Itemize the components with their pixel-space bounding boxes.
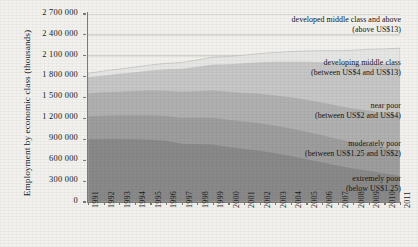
- x-tick-label: 1991: [91, 191, 100, 208]
- y-tick-label: 2 400 000: [42, 29, 78, 38]
- x-tick-label: 2008: [357, 191, 366, 208]
- x-tick-mark: [291, 202, 292, 205]
- y-tick-label: 1 500 000: [42, 91, 78, 100]
- x-tick-label: 1993: [123, 191, 132, 208]
- x-tick-mark: [104, 202, 105, 205]
- y-tick-mark: [83, 97, 86, 98]
- band-label-line2: (between US$4 and US$13): [311, 68, 401, 78]
- band-label-line1: near poor: [315, 101, 401, 111]
- x-tick-label: 2003: [279, 191, 288, 208]
- x-tick-label: 1998: [201, 191, 210, 208]
- y-tick-mark: [83, 201, 86, 202]
- y-tick-mark: [83, 181, 86, 182]
- y-tick-mark: [83, 160, 86, 161]
- x-tick-mark: [244, 202, 245, 205]
- y-tick-label: 2 700 000: [42, 8, 78, 17]
- x-tick-label: 2005: [310, 191, 319, 208]
- x-tick-mark: [275, 202, 276, 205]
- x-tick-label: 2011: [403, 191, 412, 208]
- x-tick-mark: [260, 202, 261, 205]
- band-label-line2: (between US$2 and US$4): [315, 111, 401, 121]
- x-tick-label: 2000: [232, 191, 241, 208]
- y-tick-mark: [83, 139, 86, 140]
- y-axis-title: Employment by economic class (thousands): [22, 13, 32, 213]
- x-tick-label: 1997: [185, 191, 194, 208]
- x-tick-mark: [384, 202, 385, 205]
- y-tick-label: 600 000: [49, 154, 78, 163]
- x-tick-mark: [353, 202, 354, 205]
- x-tick-mark: [135, 202, 136, 205]
- y-tick-mark: [83, 13, 86, 14]
- y-tick-mark: [83, 55, 86, 56]
- band-label-extremely-poor: extremely poor (below US$1.25): [346, 174, 401, 193]
- x-tick-mark: [197, 202, 198, 205]
- band-label-developing-middle-class: developing middle class (between US$4 an…: [311, 58, 401, 77]
- band-label-line2: (above US$13): [292, 25, 401, 35]
- x-tick-mark: [400, 202, 401, 205]
- x-tick-label: 1995: [154, 191, 163, 208]
- band-label-near-poor: near poor (between US$2 and US$4): [315, 101, 401, 120]
- x-tick-label: 1994: [138, 191, 147, 208]
- x-tick-mark: [182, 202, 183, 205]
- band-label-line2: (below US$1.25): [346, 184, 401, 194]
- x-tick-mark: [213, 202, 214, 205]
- y-axis-line: [87, 12, 88, 203]
- band-label-line1: developed middle class and above: [292, 15, 401, 25]
- x-tick-label: 2009: [372, 191, 381, 208]
- chart-container: Employment by economic class (thousands)…: [0, 0, 418, 247]
- x-tick-label: 2004: [294, 191, 303, 208]
- x-tick-label: 1992: [107, 191, 116, 208]
- band-label-moderately-poor: moderately poor (between US$1.25 and US$…: [305, 139, 401, 158]
- x-tick-label: 1999: [216, 191, 225, 208]
- band-label-line2: (between US$1.25 and US$2): [305, 149, 401, 159]
- y-tick-label: 0: [74, 196, 78, 205]
- x-tick-mark: [369, 202, 370, 205]
- y-tick-label: 900 000: [49, 133, 78, 142]
- band-label-line1: developing middle class: [311, 58, 401, 68]
- x-tick-label: 2002: [263, 191, 272, 208]
- band-label-line1: extremely poor: [346, 174, 401, 184]
- y-tick-label: 1 800 000: [42, 70, 78, 79]
- x-tick-mark: [150, 202, 151, 205]
- x-tick-mark: [119, 202, 120, 205]
- x-tick-mark: [166, 202, 167, 205]
- x-tick-mark: [306, 202, 307, 205]
- x-tick-mark: [88, 202, 89, 205]
- y-tick-label: 2 100 000: [42, 50, 78, 59]
- band-label-developed-middle-class: developed middle class and above (above …: [292, 15, 401, 34]
- x-tick-mark: [338, 202, 339, 205]
- x-tick-mark: [228, 202, 229, 205]
- x-tick-label: 1996: [169, 191, 178, 208]
- band-label-line1: moderately poor: [305, 139, 401, 149]
- x-tick-label: 2010: [388, 191, 397, 208]
- y-tick-mark: [83, 34, 86, 35]
- y-tick-label: 300 000: [49, 175, 78, 184]
- y-tick-mark: [83, 76, 86, 77]
- y-tick-label: 1 200 000: [42, 112, 78, 121]
- x-tick-label: 2007: [341, 191, 350, 208]
- y-tick-mark: [83, 118, 86, 119]
- x-tick-label: 2006: [325, 191, 334, 208]
- x-tick-mark: [322, 202, 323, 205]
- x-tick-label: 2001: [247, 191, 256, 208]
